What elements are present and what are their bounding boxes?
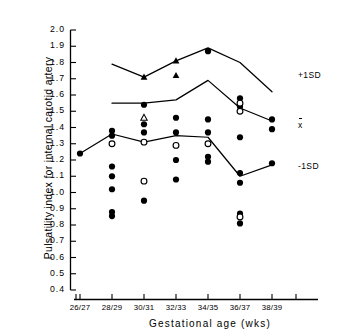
marker-filled-circle: [269, 126, 275, 132]
marker-filled-circle: [269, 160, 275, 166]
marker-open-circle: [173, 142, 179, 148]
marker-filled-circle: [173, 176, 179, 182]
marker-filled-circle: [205, 129, 211, 135]
marker-filled-circle: [237, 170, 243, 176]
marker-filled-circle: [269, 116, 275, 122]
marker-open-circle: [141, 139, 147, 145]
marker-filled-circle: [237, 134, 243, 140]
marker-filled-circle: [109, 186, 115, 192]
marker-open-circle: [237, 214, 243, 220]
reference-line-+1SD: [112, 48, 272, 92]
marker-filled-circle: [141, 102, 147, 108]
marker-filled-circle: [237, 180, 243, 186]
marker-open-circle: [205, 141, 211, 147]
marker-filled-circle: [141, 129, 147, 135]
marker-open-triangle: [141, 114, 147, 120]
marker-filled-circle: [141, 198, 147, 204]
marker-filled-circle: [205, 116, 211, 122]
annotation-1sd: +1SD: [298, 70, 321, 80]
marker-filled-circle: [173, 129, 179, 135]
marker-filled-triangle: [173, 72, 180, 78]
marker-filled-circle: [77, 150, 83, 156]
marker-filled-circle: [109, 173, 115, 179]
annotation-x: x: [298, 120, 303, 130]
marker-filled-circle: [173, 115, 179, 121]
annotation-text: x: [298, 120, 303, 130]
marker-open-circle: [237, 100, 243, 106]
marker-filled-circle: [173, 157, 179, 163]
annotation-1sd: -1SD: [298, 161, 319, 171]
marker-open-circle: [141, 178, 147, 184]
marker-open-circle: [237, 108, 243, 114]
x-axis-tick-marks: [76, 294, 296, 300]
y-axis-title: Pulsatility index for internal carotid a…: [42, 8, 54, 308]
marker-open-circle: [109, 141, 115, 147]
marker-filled-circle: [109, 163, 115, 169]
marker-filled-circle: [205, 159, 211, 165]
marker-filled-circle: [205, 48, 211, 54]
marker-filled-circle: [237, 220, 243, 226]
marker-filled-circle: [109, 213, 115, 219]
marker-filled-circle: [109, 133, 115, 139]
chart-figure: 2.01.91.81.71.61.51.41.31.21.11.00.90.80…: [0, 0, 342, 336]
axes: [71, 30, 319, 300]
reference-line-mean: [112, 80, 272, 121]
x-axis-title: Gestational age (wks): [95, 318, 325, 329]
reference-line--1SD: [80, 134, 272, 176]
marker-filled-circle: [141, 121, 147, 127]
y-axis-tick-marks: [71, 30, 77, 290]
x-tick-label: 38/39: [252, 303, 292, 312]
